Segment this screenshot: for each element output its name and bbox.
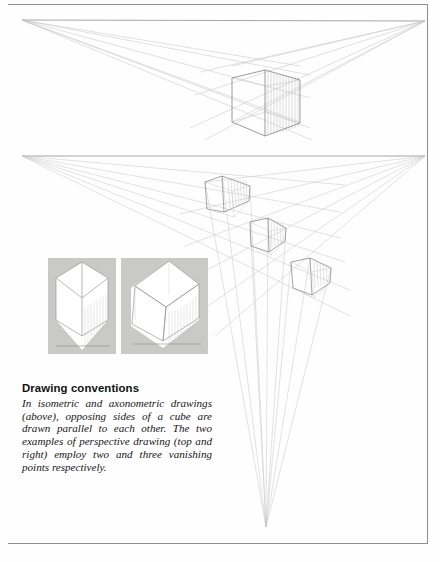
axonometric-cube-art [121,258,208,354]
panel-isometric-drawing [48,258,116,354]
isometric-cube-art [48,258,116,354]
three-point-cube-upper [205,176,250,217]
caption-heading: Drawing conventions [22,381,212,395]
caption-body: In isometric and axonometric drawings (a… [22,397,212,473]
page-canvas: Drawing conventions In isometric and axo… [0,0,440,562]
panel-axonometric-drawing [121,258,208,354]
cube-edges [291,258,331,295]
cube-hatching [314,262,327,288]
caption-block: Drawing conventions In isometric and axo… [22,381,212,473]
axonometric-cube-silhouette [131,261,199,348]
